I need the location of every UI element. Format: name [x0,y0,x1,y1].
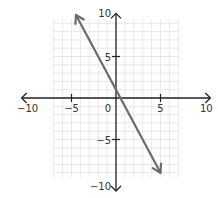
x-tick-label: 5 [157,103,163,114]
y-tick-label: −5 [96,135,111,146]
x-tick-label: −10 [17,103,38,114]
y-tick-label: −10 [90,181,111,192]
y-tick-label: 5 [105,52,111,63]
y-tick-label: 10 [98,8,111,19]
axes [22,13,211,191]
x-tick-label: −5 [64,103,79,114]
x-tick-label: 10 [200,103,213,114]
x-tick-label: 0 [105,103,111,114]
data-line [76,15,161,173]
plotted-line [75,15,161,173]
coordinate-plane: −10−50510−10−5510 [0,0,218,198]
